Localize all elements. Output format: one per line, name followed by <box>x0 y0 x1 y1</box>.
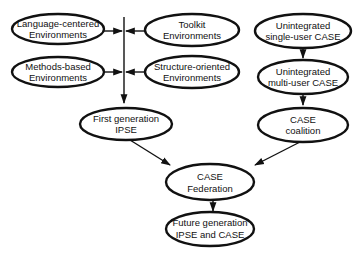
node-label-line2: coalition <box>286 125 321 136</box>
node-unintegrated-multi-user: Unintegrated multi-user CASE <box>258 60 348 94</box>
node-label-line2: Environments <box>29 29 87 40</box>
node-label-line1: CASE <box>290 114 316 125</box>
node-label-line1: First generation <box>93 113 159 124</box>
node-label-line2: IPSE <box>115 124 137 135</box>
node-case-federation: CASE Federation <box>166 164 254 200</box>
node-label-line1: Unintegrated <box>276 66 330 77</box>
edge-ipse-to-federation <box>130 140 170 165</box>
node-label-line1: CASE <box>197 171 223 182</box>
node-future-generation: Future generation IPSE and CASE <box>166 212 254 246</box>
node-label-line2: multi-user CASE <box>268 77 338 88</box>
node-toolkit: Toolkit Environments <box>145 14 239 46</box>
node-label-line1: Future generation <box>173 217 248 228</box>
node-first-generation-ipse: First generation IPSE <box>80 108 172 140</box>
edge-coalition-to-federation <box>255 142 300 165</box>
node-label-line1: Unintegrated <box>276 20 330 31</box>
node-methods-based: Methods-based Environments <box>12 57 104 87</box>
node-label-line2: Environments <box>29 72 87 83</box>
node-label-line1: Structure-oriented <box>154 61 230 72</box>
node-label-line2: IPSE and CASE <box>176 229 245 240</box>
node-label-line2: Federation <box>187 183 232 194</box>
node-label-line2: single-user CASE <box>266 31 341 42</box>
node-label-line1: Methods-based <box>25 61 90 72</box>
node-language-centered: Language-centered Environments <box>12 14 104 44</box>
node-unintegrated-single-user: Unintegrated single-user CASE <box>255 14 351 48</box>
node-label-line1: Language-centered <box>17 18 99 29</box>
node-label-line2: Environments <box>163 72 221 83</box>
node-case-coalition: CASE coalition <box>258 108 348 142</box>
node-label-line1: Toolkit <box>179 19 206 30</box>
node-structure-oriented: Structure-oriented Environments <box>145 56 239 88</box>
node-label-line2: Environments <box>163 30 221 41</box>
evolution-diagram: Language-centered Environments Toolkit E… <box>0 0 359 260</box>
